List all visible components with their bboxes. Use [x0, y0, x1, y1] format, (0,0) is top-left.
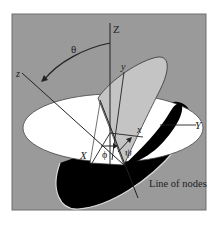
euler-angles-diagram: Z z θ y x Y X ϕ ψ Line of nodes — [0, 0, 219, 241]
label-phi: ϕ — [102, 149, 107, 160]
label-y: y — [120, 61, 126, 72]
label-psi: ψ — [125, 146, 132, 158]
label-z: z — [15, 68, 20, 79]
label-Z: Z — [113, 23, 120, 35]
label-x: x — [136, 124, 142, 135]
label-X: X — [79, 149, 88, 161]
label-line-of-nodes: Line of nodes — [149, 178, 207, 189]
label-theta: θ — [71, 43, 76, 55]
